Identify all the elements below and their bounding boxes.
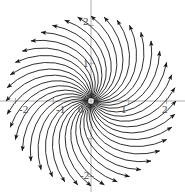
y-tick-label-2: 2 bbox=[83, 16, 89, 27]
x-tick-label--1: -1 bbox=[56, 104, 65, 115]
x-tick-label--2: -2 bbox=[19, 104, 28, 115]
vector-field-plot: -2-101221-2 bbox=[0, 0, 185, 192]
vector-field-canvas bbox=[0, 0, 185, 192]
x-tick-label-0: 0 bbox=[78, 104, 84, 115]
y-tick-label-1: 1 bbox=[83, 58, 89, 69]
x-tick-label-2: 2 bbox=[162, 104, 168, 115]
x-tick-label-1: 1 bbox=[121, 104, 127, 115]
y-tick-label--2: -2 bbox=[80, 170, 89, 181]
